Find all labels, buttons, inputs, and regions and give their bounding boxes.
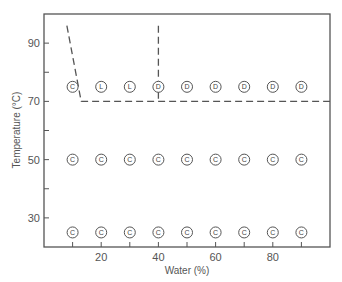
- marker-c: C: [296, 154, 307, 165]
- marker-c: C: [210, 154, 221, 165]
- data-markers: CLLDDDDDDCCCCCCCCCCCCCCCCCC: [67, 81, 307, 238]
- marker-c: C: [267, 227, 278, 238]
- marker-letter: C: [270, 156, 275, 163]
- marker-letter: C: [70, 83, 75, 90]
- marker-letter: C: [99, 156, 104, 163]
- marker-c: C: [124, 154, 135, 165]
- marker-l: L: [124, 81, 135, 92]
- y-tick-label: 30: [28, 212, 40, 224]
- marker-letter: C: [242, 229, 247, 236]
- marker-c: C: [96, 227, 107, 238]
- marker-d: D: [267, 81, 278, 92]
- marker-letter: C: [184, 229, 189, 236]
- marker-letter: C: [184, 156, 189, 163]
- marker-letter: C: [70, 229, 75, 236]
- marker-c: C: [124, 227, 135, 238]
- marker-letter: D: [299, 83, 304, 90]
- phase-diagram-chart: 30507090 20406080 CLLDDDDDDCCCCCCCCCCCCC…: [0, 0, 342, 282]
- boundary-line: [67, 26, 330, 102]
- marker-letter: D: [270, 83, 275, 90]
- marker-letter: L: [128, 83, 132, 90]
- marker-letter: C: [70, 156, 75, 163]
- marker-d: D: [296, 81, 307, 92]
- marker-d: D: [210, 81, 221, 92]
- marker-letter: D: [213, 83, 218, 90]
- marker-c: C: [296, 227, 307, 238]
- y-axis: 30507090: [28, 37, 49, 224]
- marker-d: D: [239, 81, 250, 92]
- x-tick-label: 40: [152, 251, 164, 263]
- marker-letter: D: [156, 83, 161, 90]
- marker-letter: C: [99, 229, 104, 236]
- marker-c: C: [239, 154, 250, 165]
- marker-letter: C: [156, 229, 161, 236]
- marker-letter: C: [127, 156, 132, 163]
- x-axis: 20406080: [73, 242, 302, 263]
- y-axis-title: Temperature (°C): [11, 92, 22, 169]
- marker-letter: D: [242, 83, 247, 90]
- marker-c: C: [96, 154, 107, 165]
- marker-c: C: [239, 227, 250, 238]
- marker-c: C: [67, 227, 78, 238]
- x-axis-title: Water (%): [165, 265, 210, 276]
- marker-d: D: [153, 81, 164, 92]
- marker-c: C: [210, 227, 221, 238]
- plot-frame: [44, 14, 330, 247]
- y-tick-label: 70: [28, 95, 40, 107]
- marker-letter: C: [299, 229, 304, 236]
- marker-letter: C: [127, 229, 132, 236]
- x-tick-label: 20: [95, 251, 107, 263]
- marker-letter: C: [270, 229, 275, 236]
- marker-c: C: [67, 81, 78, 92]
- marker-letter: C: [213, 229, 218, 236]
- marker-letter: C: [242, 156, 247, 163]
- marker-c: C: [153, 154, 164, 165]
- x-tick-label: 60: [209, 251, 221, 263]
- x-tick-label: 80: [267, 251, 279, 263]
- phase-boundaries: [67, 26, 330, 102]
- marker-letter: C: [299, 156, 304, 163]
- marker-l: L: [96, 81, 107, 92]
- marker-letter: D: [184, 83, 189, 90]
- marker-c: C: [67, 154, 78, 165]
- marker-c: C: [153, 227, 164, 238]
- marker-c: C: [182, 154, 193, 165]
- marker-letter: C: [213, 156, 218, 163]
- marker-letter: L: [99, 83, 103, 90]
- marker-c: C: [182, 227, 193, 238]
- marker-letter: C: [156, 156, 161, 163]
- marker-c: C: [267, 154, 278, 165]
- y-tick-label: 50: [28, 154, 40, 166]
- y-tick-label: 90: [28, 37, 40, 49]
- marker-d: D: [182, 81, 193, 92]
